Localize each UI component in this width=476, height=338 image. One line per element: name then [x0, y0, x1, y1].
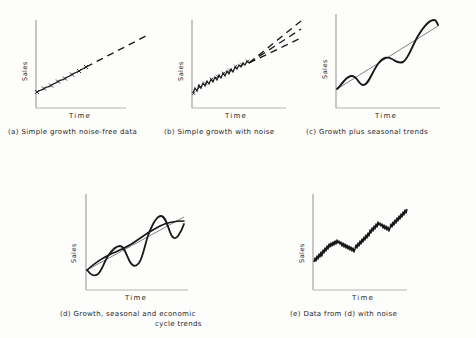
chart-e-plot [255, 180, 476, 310]
chart-a-ylabel: Sales [21, 47, 29, 81]
chart-d-caption-line2: cycle trends [155, 319, 202, 329]
chart-e-caption: (e) Data from (d) with noise [290, 309, 397, 319]
chart-e-xlabel: Time [333, 294, 393, 302]
series-seasonal-c [337, 20, 438, 89]
series-noisy-data-e [314, 209, 407, 262]
series-trend-d [87, 217, 184, 270]
chart-panel-b: Sales Time (b) Simple growth with noise [160, 0, 310, 140]
chart-panel-d: Sales Time (d) Growth, seasonal and econ… [60, 180, 250, 338]
chart-d-ylabel: Sales [70, 229, 78, 263]
chart-panel-c: Sales Time (c) Growth plus seasonal tren… [300, 0, 476, 140]
chart-d-caption-line1: (d) Growth, seasonal and economic [60, 309, 196, 319]
chart-c-ylabel: Sales [321, 45, 329, 79]
series-forecast-a [86, 36, 146, 67]
chart-e-ylabel: Sales [298, 229, 306, 263]
chart-d-plot [60, 180, 250, 310]
figure-page: Sales Time (a) Simple growth noise-free … [0, 0, 476, 338]
series-forecast-mid-b [249, 29, 301, 63]
chart-a-xlabel: Time [50, 112, 110, 120]
series-forecast-low-b [249, 38, 301, 63]
chart-panel-e: Sales Time (e) Data from (d) with noise [255, 180, 476, 338]
chart-b-xlabel: Time [206, 112, 266, 120]
chart-panel-a: Sales Time (a) Simple growth noise-free … [0, 0, 160, 140]
chart-b-caption: (b) Simple growth with noise [164, 127, 274, 137]
chart-c-caption: (c) Growth plus seasonal trends [306, 127, 428, 137]
chart-a-caption: (a) Simple growth noise-free data [8, 127, 137, 137]
chart-c-xlabel: Time [356, 112, 416, 120]
chart-d-xlabel: Time [106, 294, 166, 302]
chart-b-ylabel: Sales [177, 47, 185, 81]
